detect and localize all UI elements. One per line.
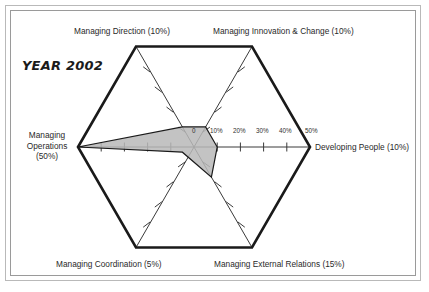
chart-page: YEAR 2002 Managing Direction (10%) Manag… (0, 0, 429, 292)
tick-label-50: 50% (305, 127, 318, 134)
axis-label-managing-external-relations: Managing External Relations (15%) (214, 259, 345, 270)
tick-label-20: 20% (233, 127, 246, 134)
tick-label-30: 30% (256, 127, 269, 134)
tick-label-0: 0 (192, 127, 196, 134)
axis-label-managing-operations-line2: Operations (14, 141, 80, 152)
axis-label-managing-operations-line3: (50%) (14, 151, 80, 162)
chart-title: YEAR 2002 (22, 58, 103, 73)
axis-label-developing-people: Developing People (10%) (315, 142, 409, 153)
axis-label-managing-innovation: Managing Innovation & Change (10%) (213, 26, 354, 37)
tick-label-40: 40% (279, 127, 292, 134)
axis-label-managing-direction: Managing Direction (10%) (74, 26, 170, 37)
axis-label-managing-coordination: Managing Coordination (5%) (56, 259, 162, 270)
data-polygon-year-2002 (78, 127, 217, 177)
axis-label-managing-operations-line1: Managing (14, 130, 80, 141)
tick-label-10: 10% (210, 127, 223, 134)
axis-label-managing-operations: Managing Operations (50%) (14, 130, 80, 162)
